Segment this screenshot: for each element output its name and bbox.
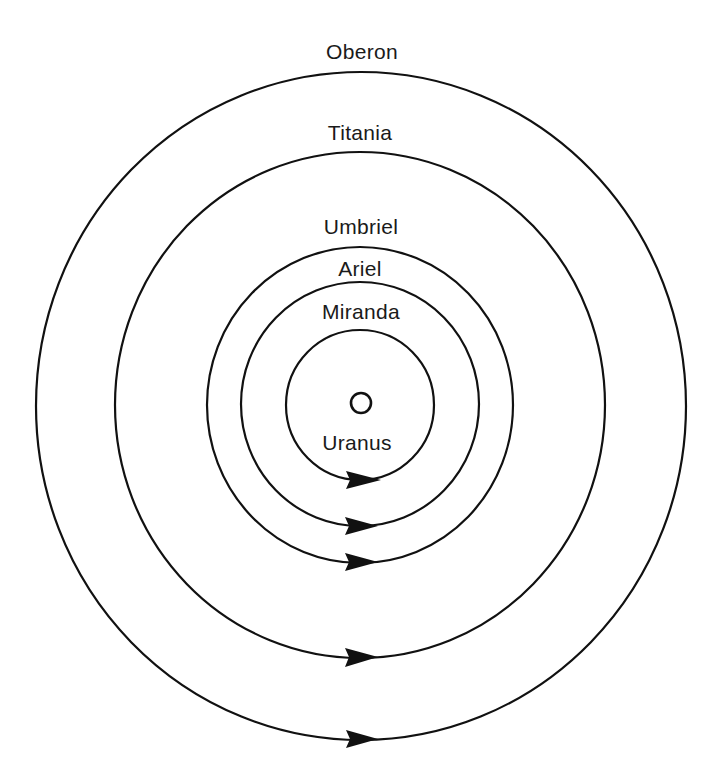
arrow-ariel-icon [345,517,378,535]
arrow-miranda-icon [346,471,381,489]
label-ariel: Ariel [338,257,382,280]
label-miranda: Miranda [322,300,400,323]
arrow-umbriel-icon [345,553,378,571]
uranus-moons-orbit-diagram: Oberon Titania Umbriel Ariel Miranda Ura… [0,0,717,778]
arrow-oberon-icon [346,730,378,748]
uranus-planet-icon [351,393,371,413]
label-titania: Titania [328,121,392,144]
label-uranus: Uranus [322,431,392,454]
label-umbriel: Umbriel [324,215,398,238]
arrow-titania-icon [345,648,378,667]
label-oberon: Oberon [326,40,398,63]
